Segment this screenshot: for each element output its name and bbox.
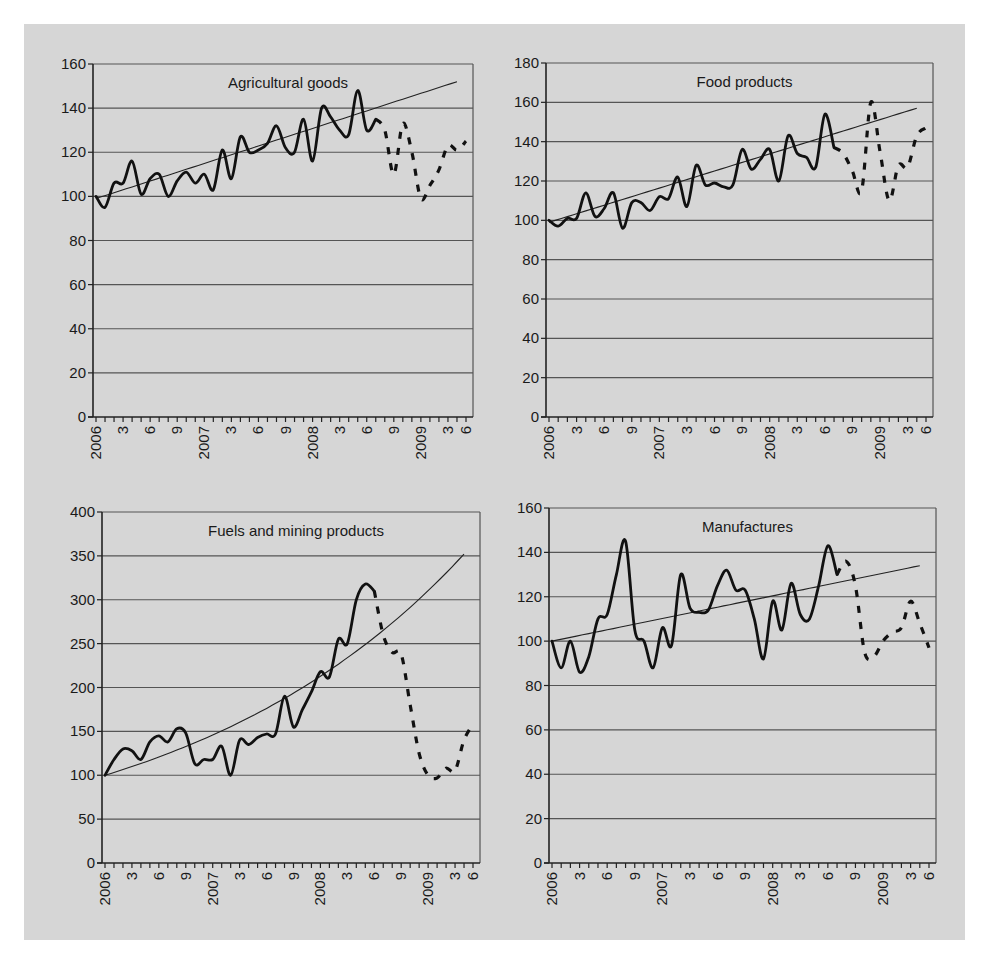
x-tick-label: 6 [464, 872, 481, 880]
x-tick-label: 2008 [304, 426, 321, 459]
series-line-dashed [837, 561, 929, 659]
chart-title: Fuels and mining products [208, 522, 384, 539]
y-tick-label: 80 [522, 251, 539, 268]
y-tick-label: 300 [70, 591, 95, 608]
x-tick-label: 3 [571, 872, 588, 880]
x-tick-label: 6 [598, 872, 615, 880]
y-tick-label: 20 [525, 810, 542, 827]
chart-manufactures: 0204060801001201401602006369200736920083… [517, 499, 937, 905]
y-tick-label: 160 [517, 499, 542, 516]
trend-line [105, 554, 464, 775]
y-tick-label: 120 [61, 143, 86, 160]
y-tick-label: 120 [514, 172, 539, 189]
y-tick-label: 120 [517, 588, 542, 605]
chart-title: Food products [697, 73, 793, 90]
x-tick-label: 2007 [650, 426, 667, 459]
series-line-dashed [374, 591, 473, 779]
trend-line [549, 108, 917, 222]
x-tick-label: 9 [733, 426, 750, 434]
x-tick-label: 9 [392, 872, 409, 880]
series-line-dashed [834, 102, 926, 201]
y-tick-label: 180 [514, 54, 539, 71]
x-tick-label: 9 [846, 872, 863, 880]
x-tick-label: 3 [788, 426, 805, 434]
series-line-actual [549, 114, 834, 228]
y-tick-label: 60 [522, 290, 539, 307]
chart-agricultural-goods: 0204060801001201401602006369200736920083… [61, 55, 474, 459]
y-tick-label: 350 [70, 547, 95, 564]
x-tick-label: 9 [277, 426, 294, 434]
y-tick-label: 250 [70, 635, 95, 652]
y-tick-label: 200 [70, 679, 95, 696]
y-tick-label: 40 [525, 765, 542, 782]
x-tick-label: 2009 [871, 426, 888, 459]
y-tick-label: 160 [61, 55, 86, 72]
x-tick-label: 2009 [419, 872, 436, 905]
x-tick-label: 2006 [87, 426, 104, 459]
series-line-actual [552, 540, 837, 673]
chart-title: Manufactures [702, 518, 793, 535]
y-tick-label: 0 [534, 854, 542, 871]
x-tick-label: 6 [358, 426, 375, 434]
x-tick-label: 3 [568, 426, 585, 434]
x-tick-label: 6 [457, 426, 474, 434]
chart-title: Agricultural goods [228, 74, 348, 91]
x-tick-label: 6 [595, 426, 612, 434]
y-tick-label: 0 [87, 854, 95, 871]
x-tick-label: 3 [439, 426, 456, 434]
x-tick-label: 6 [819, 872, 836, 880]
y-tick-label: 140 [514, 133, 539, 150]
x-tick-label: 2007 [204, 872, 221, 905]
x-tick-label: 3 [123, 872, 140, 880]
x-tick-label: 9 [285, 872, 302, 880]
x-tick-label: 2006 [543, 872, 560, 905]
trend-line [552, 566, 920, 641]
chart-food-products: 0204060801001201401601802006369200736920… [514, 54, 934, 459]
y-tick-label: 50 [78, 810, 95, 827]
y-tick-label: 0 [531, 408, 539, 425]
x-tick-label: 3 [338, 872, 355, 880]
y-tick-label: 20 [522, 369, 539, 386]
x-tick-label: 3 [222, 426, 239, 434]
x-tick-label: 6 [917, 426, 934, 434]
x-tick-label: 2006 [96, 872, 113, 905]
x-tick-label: 9 [623, 426, 640, 434]
series-line-dashed [376, 119, 466, 200]
y-tick-label: 150 [70, 722, 95, 739]
x-tick-label: 9 [177, 872, 194, 880]
y-tick-label: 140 [61, 99, 86, 116]
y-tick-label: 80 [525, 677, 542, 694]
x-tick-label: 6 [150, 872, 167, 880]
y-tick-label: 100 [61, 187, 86, 204]
x-tick-label: 2008 [761, 426, 778, 459]
x-tick-label: 9 [843, 426, 860, 434]
x-tick-label: 3 [331, 426, 348, 434]
y-tick-label: 20 [69, 364, 86, 381]
x-tick-label: 2009 [874, 872, 891, 905]
x-tick-label: 6 [258, 872, 275, 880]
x-tick-label: 6 [365, 872, 382, 880]
chart-fuels-and-mining-products: 0501001502002503003504002006369200736920… [70, 503, 481, 905]
x-tick-label: 3 [446, 872, 463, 880]
x-tick-label: 2008 [764, 872, 781, 905]
y-tick-label: 40 [522, 329, 539, 346]
x-tick-label: 3 [791, 872, 808, 880]
y-tick-label: 60 [525, 721, 542, 738]
y-tick-label: 160 [514, 93, 539, 110]
x-tick-label: 6 [709, 872, 726, 880]
x-tick-label: 3 [678, 426, 695, 434]
x-tick-label: 6 [706, 426, 723, 434]
y-tick-label: 100 [70, 766, 95, 783]
y-tick-label: 80 [69, 232, 86, 249]
y-tick-label: 140 [517, 543, 542, 560]
x-tick-label: 9 [626, 872, 643, 880]
y-tick-label: 0 [78, 408, 86, 425]
x-tick-label: 2009 [412, 426, 429, 459]
x-tick-label: 3 [114, 426, 131, 434]
y-tick-label: 100 [514, 211, 539, 228]
x-tick-label: 2006 [540, 426, 557, 459]
x-tick-label: 3 [681, 872, 698, 880]
x-tick-label: 3 [231, 872, 248, 880]
x-tick-label: 9 [385, 426, 402, 434]
x-tick-label: 3 [899, 426, 916, 434]
